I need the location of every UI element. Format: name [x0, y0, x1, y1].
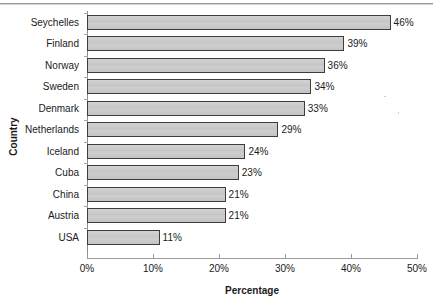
x-axis-tick-label: 0% — [62, 263, 112, 274]
y-axis-tick — [84, 77, 88, 78]
y-axis-tick — [84, 163, 88, 164]
y-axis-tick — [84, 13, 88, 14]
bar-row[interactable]: Norway36% — [87, 55, 417, 77]
bar-value-label: 36% — [325, 58, 348, 73]
scan-speckle — [384, 96, 386, 97]
category-label: Austria — [0, 208, 83, 223]
bar[interactable] — [87, 79, 311, 94]
bar-row[interactable]: Cuba23% — [87, 162, 417, 184]
category-label: Denmark — [0, 101, 83, 116]
bar[interactable] — [87, 144, 245, 159]
bar-row[interactable]: Seychelles46% — [87, 12, 417, 34]
y-axis-tick — [84, 142, 88, 143]
x-axis-title: Percentage — [87, 285, 417, 296]
x-axis-tick — [87, 254, 88, 259]
bar-value-label: 33% — [305, 101, 328, 116]
category-label: China — [0, 187, 83, 202]
bar-value-label: 21% — [226, 187, 249, 202]
bar-row[interactable]: Denmark33% — [87, 98, 417, 120]
bar[interactable] — [87, 187, 226, 202]
y-axis-tick — [84, 34, 88, 35]
category-label: Iceland — [0, 144, 83, 159]
bar-value-label: 46% — [391, 15, 414, 30]
y-axis-tick — [84, 185, 88, 186]
bar-value-label: 29% — [278, 122, 301, 137]
bar-chart: Country Percentage 0%10%20%30%40%50% Sey… — [0, 0, 433, 303]
category-label: Finland — [0, 36, 83, 51]
x-axis-tick — [351, 254, 352, 259]
bar[interactable] — [87, 165, 239, 180]
bar-row[interactable]: China21% — [87, 184, 417, 206]
y-axis-tick — [84, 120, 88, 121]
bar-value-label: 11% — [160, 230, 182, 245]
bar[interactable] — [87, 36, 344, 51]
bar-row[interactable]: Austria21% — [87, 205, 417, 227]
x-axis-tick-label: 10% — [128, 263, 178, 274]
bar-value-label: 34% — [311, 79, 334, 94]
bar[interactable] — [87, 122, 278, 137]
bar[interactable] — [87, 230, 160, 245]
bar[interactable] — [87, 15, 391, 30]
bar-value-label: 39% — [344, 36, 367, 51]
category-label: USA — [0, 230, 83, 245]
x-axis-tick-label: 20% — [194, 263, 244, 274]
plot-area: 0%10%20%30%40%50% Seychelles46%Finland39… — [87, 11, 417, 259]
bar-row[interactable]: Netherlands29% — [87, 119, 417, 141]
x-axis-tick — [153, 254, 154, 259]
y-axis-tick — [84, 206, 88, 207]
bar-row[interactable]: Iceland24% — [87, 141, 417, 163]
bar-row[interactable]: USA11% — [87, 227, 417, 249]
bar-row[interactable]: Sweden34% — [87, 76, 417, 98]
bar[interactable] — [87, 101, 305, 116]
x-axis-tick-label: 40% — [326, 263, 376, 274]
category-label: Sweden — [0, 79, 83, 94]
y-axis-tick — [84, 228, 88, 229]
x-axis-tick — [285, 254, 286, 259]
category-label: Netherlands — [0, 122, 83, 137]
category-label: Seychelles — [0, 15, 83, 30]
bar-row[interactable]: Finland39% — [87, 33, 417, 55]
x-axis-tick — [219, 254, 220, 259]
scan-speckle — [398, 112, 399, 114]
category-label: Norway — [0, 58, 83, 73]
category-label: Cuba — [0, 165, 83, 180]
bar[interactable] — [87, 208, 226, 223]
x-axis-tick-label: 30% — [260, 263, 310, 274]
bar-value-label: 24% — [245, 144, 268, 159]
x-axis-tick — [417, 254, 418, 259]
x-axis-tick-label: 50% — [392, 263, 433, 274]
bar[interactable] — [87, 58, 325, 73]
bar-value-label: 21% — [226, 208, 249, 223]
x-axis-line — [87, 258, 417, 259]
y-axis-tick — [84, 99, 88, 100]
y-axis-tick — [84, 56, 88, 57]
bar-value-label: 23% — [239, 165, 262, 180]
